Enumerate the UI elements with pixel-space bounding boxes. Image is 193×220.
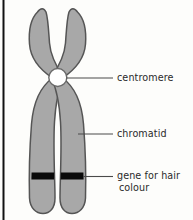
centromere-circle	[49, 69, 67, 87]
label-chromatid: chromatid	[117, 128, 167, 140]
label-gene-for-hair-colour: gene for haircolour	[117, 170, 180, 193]
label-centromere: centromere	[117, 72, 174, 84]
label-gene-line1: gene for hair	[117, 170, 180, 181]
gene-band-left	[31, 173, 54, 180]
chromosome-body	[29, 9, 85, 214]
gene-band-right	[61, 173, 84, 180]
chromatid-right-shape	[52, 9, 86, 214]
label-gene-line2: colour	[119, 182, 180, 194]
chromatid-left-shape	[29, 9, 63, 214]
chromosome-diagram-figure: centromere chromatid gene for haircolour	[0, 0, 193, 220]
